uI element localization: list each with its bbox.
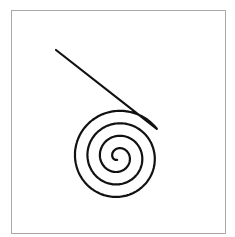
spiral-with-tail-line bbox=[56, 50, 157, 197]
spiral-diagram bbox=[0, 0, 235, 237]
